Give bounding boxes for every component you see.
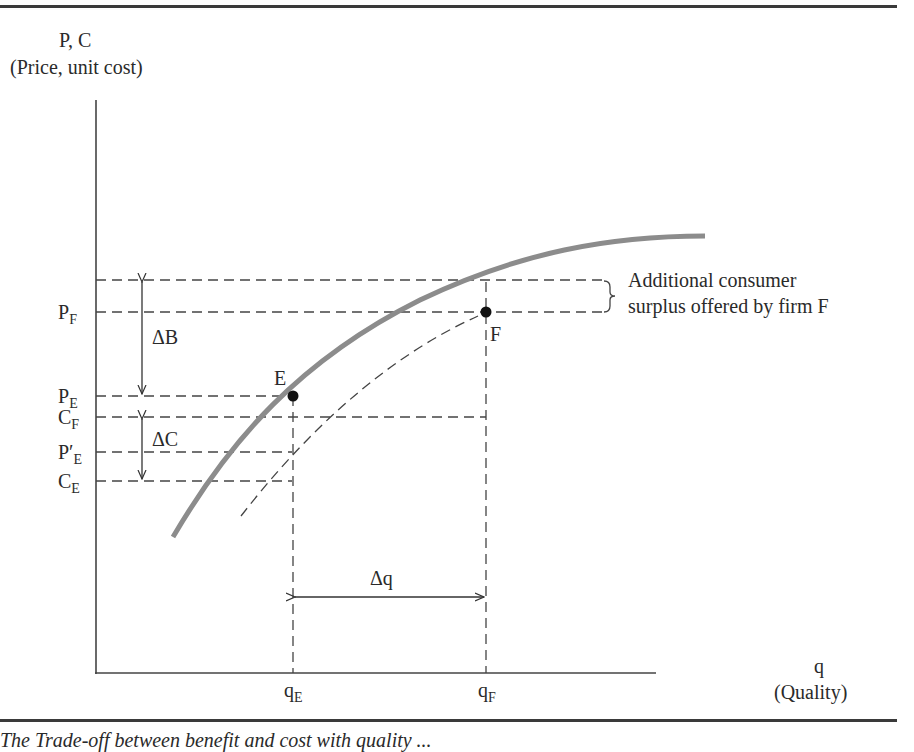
x-label-qF: qF [478, 680, 496, 700]
point-E-marker [288, 391, 299, 402]
surplus-annotation-line1: Additional consumer [628, 270, 796, 290]
solid-value-curve [173, 236, 705, 537]
point-E-label: E [274, 368, 286, 388]
x-label-qE: qE [284, 680, 303, 700]
delta-c-label: ΔC [152, 429, 178, 449]
figure-caption: The Trade-off between benefit and cost w… [0, 729, 432, 752]
y-label-PE: PE [58, 386, 78, 406]
y-label-PF: PF [58, 302, 77, 322]
point-F-label: F [490, 324, 501, 344]
delta-b-label: ΔB [152, 327, 178, 347]
surplus-brace-icon [604, 281, 615, 312]
y-label-CE: CE [58, 471, 80, 491]
y-label-PE-prime: P′E [58, 442, 82, 462]
delta-q-label: Δq [370, 568, 393, 588]
surplus-annotation-line2: surplus offered by firm F [628, 296, 829, 316]
dashed-cost-curve [241, 316, 478, 516]
y-label-CF: CF [58, 407, 79, 427]
point-F-marker [481, 307, 492, 318]
